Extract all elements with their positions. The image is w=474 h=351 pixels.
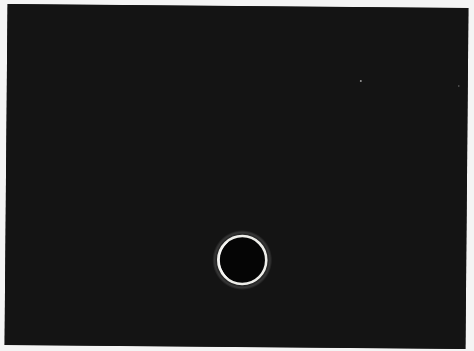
eclipse-photo: Annular solar eclipse (ring of fire) aga… [5,4,469,349]
photo-canvas [5,4,469,349]
star [360,80,362,82]
night-sky [5,4,469,349]
star [458,85,460,87]
